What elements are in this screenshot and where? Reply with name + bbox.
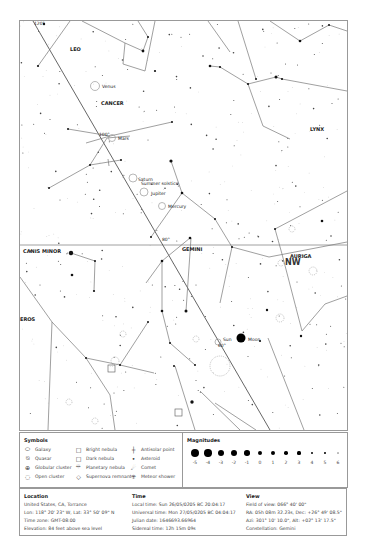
star	[93, 84, 94, 85]
star	[260, 263, 262, 265]
star	[191, 124, 193, 126]
magnitude-legend-item: -4	[202, 449, 214, 465]
magnitude-legend-item: 0	[254, 449, 266, 465]
star	[46, 134, 47, 135]
star	[243, 74, 244, 75]
star	[152, 202, 153, 203]
star	[21, 138, 22, 139]
star	[251, 190, 252, 191]
star	[67, 253, 68, 254]
star	[319, 414, 321, 416]
magnitude-dot	[271, 451, 275, 455]
magnitude-legend-item: 1	[267, 449, 279, 465]
star	[248, 400, 249, 401]
magnitude-dot	[297, 451, 300, 454]
star	[262, 258, 263, 259]
bright-star	[154, 70, 156, 72]
star	[174, 285, 175, 286]
star	[258, 236, 260, 238]
star	[143, 121, 144, 122]
star	[313, 108, 315, 110]
star	[205, 349, 206, 350]
star	[28, 167, 29, 168]
star	[297, 281, 298, 282]
magnitude-dot	[204, 449, 211, 456]
star	[77, 202, 78, 203]
star	[281, 150, 282, 151]
symbol-label: Bright nebula	[86, 447, 117, 452]
star	[346, 333, 347, 334]
star	[328, 388, 329, 389]
bright-star	[171, 121, 173, 123]
star	[229, 286, 230, 287]
star	[57, 94, 58, 95]
star	[122, 266, 123, 267]
star	[85, 194, 86, 195]
star	[102, 428, 103, 429]
star	[175, 112, 176, 113]
bright-star	[247, 83, 249, 85]
star	[309, 289, 310, 290]
star	[198, 92, 199, 93]
magnitude-dot	[284, 451, 288, 455]
constellation-label-lynx: LYNX	[310, 126, 324, 132]
star	[196, 285, 197, 286]
star	[232, 221, 233, 222]
star	[26, 271, 28, 273]
star	[309, 173, 310, 174]
star	[45, 398, 46, 399]
star	[99, 190, 101, 192]
star	[238, 122, 239, 123]
star	[125, 209, 126, 210]
star	[239, 238, 240, 239]
view-title: View	[246, 493, 260, 499]
star	[110, 366, 111, 367]
star	[304, 192, 305, 193]
bright-star	[181, 192, 184, 195]
bright-star	[37, 65, 39, 67]
bright-star	[185, 310, 188, 313]
star	[272, 241, 274, 243]
star	[47, 187, 48, 188]
star	[101, 250, 103, 252]
view-radec: RA: 05h 08m 32.23s, Dec: +26° 49' 08.5"	[246, 510, 342, 515]
bright-star	[275, 76, 278, 79]
moon-marker	[237, 334, 246, 343]
star-chart[interactable]: LEO CANCER LYNX GEMINI CANIS MINOR AURIG…	[19, 20, 348, 431]
star	[131, 328, 132, 329]
star	[21, 231, 22, 232]
globular-cluster-icon: ⊕	[24, 464, 31, 470]
symbol-label: Meteor shower	[141, 474, 175, 479]
star	[281, 355, 282, 356]
star	[236, 263, 237, 264]
magnitude-label: -2	[228, 460, 240, 465]
star	[99, 206, 100, 207]
bright-nebula-icon: □	[75, 446, 82, 452]
symbol-label: Comet	[141, 465, 156, 470]
star	[53, 234, 54, 235]
star	[332, 103, 333, 104]
star	[305, 366, 306, 367]
star	[289, 212, 290, 213]
bright-star	[300, 335, 302, 337]
star	[322, 43, 323, 44]
symbols-title: Symbols	[24, 437, 48, 443]
star	[337, 413, 338, 414]
symbol-legend-item: ◇Supernova remnant	[75, 473, 132, 479]
bright-star	[67, 128, 69, 130]
bright-star	[274, 228, 276, 230]
star	[189, 34, 190, 35]
symbol-legend-item: ⯐Planetary nebula	[75, 464, 125, 470]
star	[56, 35, 57, 36]
star	[344, 341, 345, 342]
star	[274, 204, 275, 205]
star	[23, 147, 24, 148]
star	[103, 320, 104, 321]
magnitude-label: -5	[189, 460, 201, 465]
star	[345, 298, 346, 299]
star	[237, 140, 238, 141]
asteroid-icon: •	[130, 455, 137, 461]
star	[213, 253, 214, 254]
star	[125, 301, 126, 302]
star	[140, 291, 141, 292]
